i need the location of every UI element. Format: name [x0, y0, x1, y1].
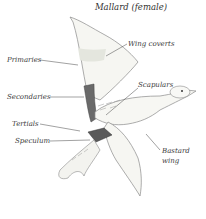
- diagram-canvas: Mallard (female) Wing coverts Primaries …: [0, 0, 206, 219]
- mallard-illustration: [0, 0, 206, 219]
- label-tertials: Tertials: [12, 120, 39, 128]
- label-scapulars: Scapulars: [138, 81, 173, 89]
- label-bastard-wing-line1: Bastard: [162, 147, 190, 155]
- eye: [181, 90, 183, 92]
- label-primaries: Primaries: [7, 56, 41, 64]
- leader-speculum: [50, 140, 90, 141]
- leader-tertials: [40, 124, 80, 131]
- label-bastard-wing-line2: wing: [162, 157, 179, 165]
- label-secondaries: Secondaries: [7, 93, 51, 101]
- primaries-shade: [78, 48, 106, 62]
- tail: [59, 140, 100, 179]
- leader-bastard-wing: [146, 134, 160, 150]
- diagram-title: Mallard (female): [0, 2, 206, 12]
- leader-primaries: [40, 60, 78, 65]
- label-wing-coverts: Wing coverts: [128, 40, 175, 48]
- label-speculum: Speculum: [15, 137, 50, 145]
